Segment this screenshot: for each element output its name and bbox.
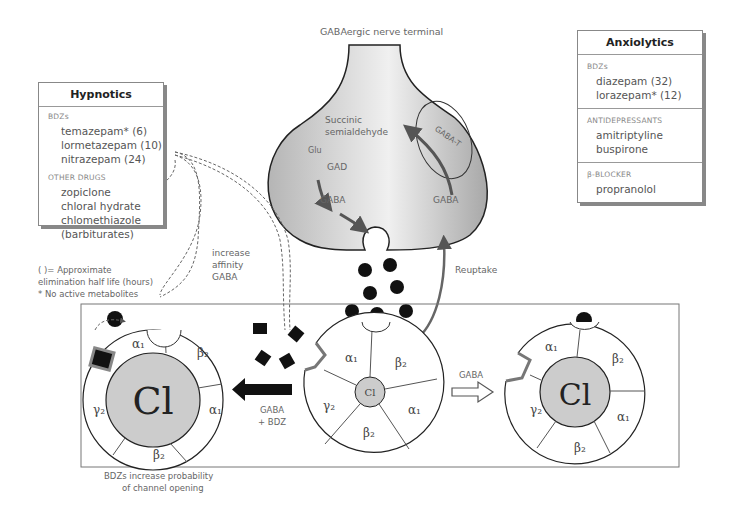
gaba-bdz-label-1: GABA [260, 405, 284, 415]
svg-text:γ₂: γ₂ [530, 403, 542, 417]
increase-label: increase [212, 248, 250, 258]
receptor-left: Cl α₁ β₂ α₁ β₂ γ₂ [83, 330, 223, 470]
footnote-1: ( )= Approximate [38, 265, 111, 275]
drug-buspirone: buspirone [596, 142, 702, 156]
hypnotics-category-bdz: BDZs [48, 112, 163, 121]
svg-text:α₁: α₁ [132, 337, 145, 351]
gaba-bdz-arrow [232, 378, 292, 401]
gaba-right-label: GABA [433, 195, 458, 205]
affinity-label: affinity [212, 260, 243, 270]
anxiolytics-title: Anxiolytics [578, 31, 702, 55]
gaba-arrow [452, 382, 493, 402]
succinic-label: Succinic [325, 115, 362, 125]
drug-lorazepam: lorazepam* (12) [596, 88, 702, 102]
svg-text:β₂: β₂ [363, 426, 375, 440]
drug-chlomethiazole: chlomethiazole [61, 213, 163, 227]
anxiolytics-category-antidepressants: ANTIDEPRESSANTS [587, 116, 702, 125]
caption-line-1: BDZs increase probability [104, 471, 213, 481]
gad-label: GAD [327, 162, 347, 172]
anxiolytics-category-bdz: BDZs [587, 62, 702, 71]
drug-temazepam: temazepam* (6) [61, 124, 163, 138]
hypnotics-box: Hypnotics BDZs temazepam* (6) lormetazep… [38, 82, 164, 226]
hypnotics-category-other: OTHER DRUGS [48, 173, 163, 182]
nerve-terminal [268, 45, 487, 250]
svg-text:α₁: α₁ [617, 410, 630, 424]
svg-text:γ₂: γ₂ [93, 403, 105, 417]
drug-amitriptyline: amitriptyline [596, 128, 702, 142]
drug-zopiclone: zopiclone [61, 185, 163, 199]
svg-text:α₁: α₁ [345, 351, 358, 365]
terminal-title: GABAergic nerve terminal [320, 26, 443, 37]
semialdehyde-label: semialdehyde [325, 127, 388, 137]
hypnotics-title: Hypnotics [39, 83, 163, 107]
svg-text:β₂: β₂ [395, 356, 407, 370]
svg-text:β₂: β₂ [612, 352, 624, 366]
anxiolytics-box: Anxiolytics BDZs diazepam (32) lorazepam… [577, 30, 703, 203]
reuptake-label: Reuptake [455, 265, 497, 275]
svg-text:β₂: β₂ [574, 441, 586, 455]
caption-line-2: of channel opening [122, 483, 204, 493]
svg-text:Cl: Cl [559, 377, 592, 412]
anxiolytics-category-beta-blocker: β-BLOCKER [587, 170, 702, 179]
svg-text:α₁: α₁ [209, 403, 222, 417]
gaba-affinity-label: GABA [212, 272, 237, 282]
bdz-molecules [253, 323, 304, 369]
drug-diazepam: diazepam (32) [596, 74, 702, 88]
svg-text:β₂: β₂ [153, 448, 165, 462]
drug-lormetazepam: lormetazepam (10) [61, 138, 163, 152]
gaba-bdz-label-2: + BDZ [258, 417, 286, 427]
svg-text:Cl: Cl [132, 379, 173, 423]
svg-text:β₂: β₂ [197, 346, 209, 360]
svg-text:γ₂: γ₂ [323, 399, 335, 413]
drug-propranolol: propranolol [596, 182, 702, 196]
receptor-middle: Cl α₁ β₂ α₁ β₂ γ₂ [304, 312, 444, 452]
glu-label: Glu [308, 146, 322, 155]
receptor-right: Cl α₁ β₂ α₁ β₂ γ₂ [505, 322, 645, 464]
drug-barbiturates: (barbiturates) [61, 227, 163, 241]
drug-nitrazepam: nitrazepam (24) [61, 152, 163, 166]
drug-chloral-hydrate: chloral hydrate [61, 199, 163, 213]
svg-text:α₁: α₁ [545, 340, 558, 354]
footnote-2: elimination half life (hours) [38, 277, 153, 287]
gaba-left-label: GABA [320, 195, 345, 205]
footnote-3: * No active metabolites [38, 289, 138, 299]
gaba-arrow-label: GABA [459, 370, 483, 380]
svg-text:Cl: Cl [365, 387, 376, 398]
svg-text:α₁: α₁ [408, 403, 421, 417]
